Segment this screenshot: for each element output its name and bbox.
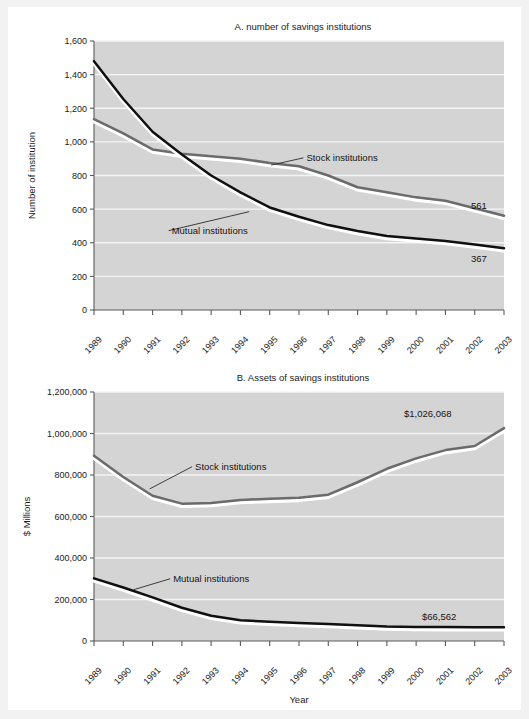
- x-axis-tick-label: 1999: [376, 334, 397, 355]
- x-axis-tick-label: 1998: [346, 334, 367, 355]
- chart-panel-a: A. number of savings institutions0200400…: [8, 11, 521, 361]
- chart-title: B. Assets of savings institutions: [237, 372, 370, 383]
- y-axis-tick-label: 1,200,000: [47, 387, 87, 397]
- x-axis-tick-label: 1989: [83, 334, 104, 355]
- x-axis-tick-label: 1991: [141, 665, 162, 686]
- y-axis-tick-label: 600: [72, 205, 87, 215]
- x-axis-tick-label: 1996: [288, 665, 309, 686]
- x-axis-tick-label: 2000: [405, 334, 426, 355]
- y-axis-tick-label: 800,000: [54, 470, 87, 480]
- x-axis-tick-label: 1991: [141, 334, 162, 355]
- x-axis-tick-label: 2003: [493, 665, 514, 686]
- y-axis-tick-label: 800: [72, 171, 87, 181]
- y-axis-tick-label: 400: [72, 238, 87, 248]
- x-axis-tick-label: 2002: [463, 665, 484, 686]
- series-end-value-label: 367: [471, 253, 487, 264]
- x-axis-tick-label: 1994: [229, 665, 250, 686]
- series-callout-label: Mutual institutions: [172, 225, 248, 236]
- x-axis-tick-label: 1995: [258, 665, 279, 686]
- x-axis-tick-label: 1996: [288, 334, 309, 355]
- x-axis-tick-label: 1997: [317, 334, 338, 355]
- y-axis-tick-label: 200,000: [54, 595, 87, 605]
- series-end-value-label: $66,562: [422, 611, 456, 622]
- chart-title: A. number of savings institutions: [235, 21, 372, 32]
- x-axis-tick-label: 1999: [376, 665, 397, 686]
- x-axis-tick-label: 1992: [171, 665, 192, 686]
- x-axis-tick-label: 2003: [493, 334, 514, 355]
- y-axis-tick-label: 1,400: [64, 70, 87, 80]
- y-axis-tick-label: 1,000: [64, 137, 87, 147]
- y-axis-tick-label: 600,000: [54, 512, 87, 522]
- y-axis-tick-label: 1,000,000: [47, 429, 87, 439]
- y-axis-tick-label: 400,000: [54, 553, 87, 563]
- series-end-value-label: $1,026,068: [404, 408, 452, 419]
- chart-panel-b: B. Assets of savings institutions0200,00…: [8, 361, 521, 710]
- x-axis-title: Year: [289, 694, 308, 705]
- x-axis-tick-label: 2001: [434, 665, 455, 686]
- x-axis-tick-label: 1993: [200, 665, 221, 686]
- y-axis-title: Number of institution: [26, 132, 37, 219]
- y-axis-tick-label: 1,600: [64, 36, 87, 46]
- x-axis-tick-label: 1997: [317, 665, 338, 686]
- x-axis-tick-label: 2000: [405, 665, 426, 686]
- x-axis-tick-label: 1995: [258, 334, 279, 355]
- y-axis-title: $ Millions: [21, 496, 32, 536]
- y-axis-tick-label: 1,200: [64, 104, 87, 114]
- series-end-value-label: 561: [471, 200, 487, 211]
- x-axis-tick-label: 1992: [171, 334, 192, 355]
- x-axis-tick-label: 1994: [229, 334, 250, 355]
- chart-b-svg: B. Assets of savings institutions0200,00…: [8, 361, 521, 710]
- series-callout-label: Stock institutions: [195, 461, 267, 472]
- series-callout-label: Stock institutions: [306, 152, 378, 163]
- x-axis-tick-label: 2001: [434, 334, 455, 355]
- x-axis-tick-label: 1993: [200, 334, 221, 355]
- x-axis-tick-label: 1989: [83, 665, 104, 686]
- series-callout-label: Mutual institutions: [173, 573, 249, 584]
- x-axis-tick-label: 1998: [346, 665, 367, 686]
- chart-a-svg: A. number of savings institutions0200400…: [8, 11, 521, 361]
- x-axis-tick-label: 2002: [463, 334, 484, 355]
- y-axis-tick-label: 0: [82, 305, 87, 315]
- page-canvas: A. number of savings institutions0200400…: [0, 0, 529, 719]
- y-axis-tick-label: 200: [72, 272, 87, 282]
- x-axis-tick-label: 1990: [112, 665, 133, 686]
- figure-sheet: A. number of savings institutions0200400…: [8, 7, 521, 710]
- x-axis-tick-label: 1990: [112, 334, 133, 355]
- y-axis-tick-label: 0: [82, 636, 87, 646]
